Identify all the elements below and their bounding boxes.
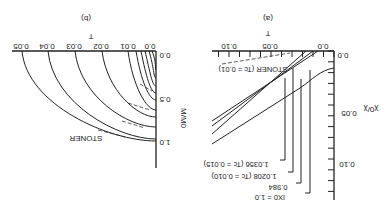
panel-b-curve — [48, 51, 156, 139]
tick-b-y-1.0: 1.0 — [159, 138, 171, 147]
label-c1: IX0 = 1.0 — [255, 193, 285, 202]
figure-canvas: 0.05 0.04 0.03 0.02 0.01 0.0 0.0 0.5 1.0… — [0, 0, 386, 209]
panel-b: 0.05 0.04 0.03 0.02 0.01 0.0 0.0 0.5 1.0… — [12, 14, 188, 168]
label-c4: 1.0356 (Tc = 0.015) — [203, 160, 268, 169]
tick-a-y-0.0: 0.0 — [337, 51, 349, 60]
panel-a-line — [212, 68, 334, 144]
panel-b-curve — [102, 51, 156, 117]
figure: 0.05 0.04 0.03 0.02 0.01 0.0 0.0 0.5 1.0… — [0, 0, 386, 209]
panel-b-label: (b) — [81, 14, 91, 23]
tick-a-y-0.05: 0.05 — [341, 109, 357, 118]
tick-a-x-0.10: 0.10 — [221, 42, 237, 51]
tick-b-x-0.0: 0.0 — [144, 42, 156, 51]
panel-a: 0.10 0.05 0.0 0.0 0.05 0.10 T χ0/χ (a) S… — [203, 14, 378, 202]
panel-a-line — [212, 51, 306, 134]
panel-a-line — [212, 51, 313, 126]
panel-b-ylabel: M/M0 — [179, 108, 188, 129]
panel-a-curves — [212, 51, 334, 144]
tick-b-x-0.01: 0.01 — [120, 42, 136, 51]
panel-a-ylabel: χ0/χ — [363, 105, 379, 114]
tick-a-x-0.05: 0.05 — [262, 42, 278, 51]
tick-a-x-0.0: 0.0 — [317, 42, 329, 51]
panel-b-curve — [136, 51, 156, 100]
panel-b-xlabel: T — [88, 32, 93, 41]
tick-a-y-0.10: 0.10 — [339, 160, 355, 169]
label-c2: 0.984 — [269, 183, 288, 192]
tick-b-x-0.02: 0.02 — [93, 42, 109, 51]
panel-a-stoner-label: STONER (Tc = 0.01) — [218, 65, 287, 74]
panel-b-curve — [22, 51, 156, 141]
panel-a-stoner-dashed — [222, 53, 290, 64]
tick-b-y-0.0: 0.0 — [159, 51, 171, 60]
tick-b-x-0.05: 0.05 — [13, 42, 29, 51]
tick-b-x-0.04: 0.04 — [39, 42, 55, 51]
panel-a-label: (a) — [263, 14, 273, 23]
label-c3: 1.0208 (Tc = 0.010) — [211, 172, 276, 181]
tick-b-y-0.5: 0.5 — [159, 95, 171, 104]
tick-b-x-0.03: 0.03 — [66, 42, 82, 51]
panel-b-curves — [22, 51, 156, 141]
panel-a-xlabel: T — [265, 29, 270, 38]
panel-b-stoner-label: STONER — [69, 134, 102, 143]
